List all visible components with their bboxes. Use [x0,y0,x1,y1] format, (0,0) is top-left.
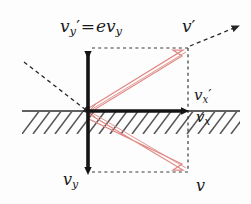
label-text: v [182,16,192,36]
label-vx: vx [196,110,210,127]
label-vx-prime: vx′ [194,88,211,105]
surface-group [22,110,249,134]
label-prime: ′ [208,86,211,104]
label-v-prime: v′ [182,18,195,35]
label-rhs: v [106,16,116,36]
label-text: v [196,176,205,195]
label-vy-prime-equation: vy′=evy [60,18,122,38]
red-vector-up-core [89,52,186,111]
label-equals: = [80,16,96,36]
bounce-vector-diagram: vy′=evy v′ vx′ vx vy v [0,0,251,204]
outgoing-ray-arrow [190,28,234,46]
label-rhs-sub: y [116,24,123,38]
label-sub: x [204,116,210,127]
diagram-canvas [0,0,251,204]
label-prime: ′ [192,16,196,36]
hatching [22,110,249,134]
label-v: v [196,178,205,194]
red-vector-down [89,114,183,170]
label-coefficient: e [96,16,106,36]
red-vector-down-core [89,111,186,168]
label-sub: y [72,178,78,191]
incoming-ray-arrow [24,62,86,110]
red-vector-up [89,50,183,113]
label-text: v [63,170,72,189]
label-text: v [60,16,70,36]
label-vy: vy [63,172,78,191]
